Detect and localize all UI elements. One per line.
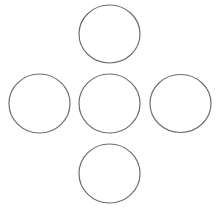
circle-right	[150, 75, 211, 133]
circle-top	[79, 5, 140, 63]
cross-circle-diagram	[0, 0, 217, 211]
circle-center	[79, 74, 140, 133]
circle-bottom	[79, 144, 140, 203]
circle-left	[9, 74, 70, 133]
